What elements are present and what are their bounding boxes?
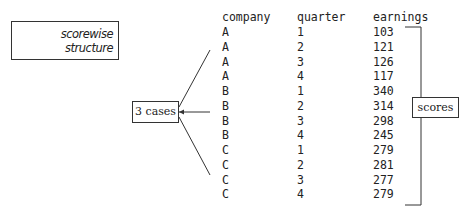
cell-earnings: 277: [373, 174, 394, 187]
cell-earnings: 279: [373, 188, 394, 201]
cell-company: A: [222, 56, 229, 69]
cell-quarter: 4: [297, 129, 304, 142]
cell-earnings: 103: [373, 26, 394, 39]
cell-company: A: [222, 41, 229, 54]
cell-earnings: 121: [373, 41, 394, 54]
cell-quarter: 2: [297, 100, 304, 113]
line-to-group-a: [179, 50, 210, 107]
cell-quarter: 1: [297, 26, 304, 39]
cell-earnings: 298: [373, 115, 394, 128]
cell-company: B: [222, 100, 229, 113]
cell-earnings: 279: [373, 144, 394, 157]
cell-company: B: [222, 85, 229, 98]
cell-quarter: 3: [297, 56, 304, 69]
cell-company: B: [222, 115, 229, 128]
cell-company: C: [222, 188, 229, 201]
cell-earnings: 245: [373, 129, 394, 142]
cell-earnings: 340: [373, 85, 394, 98]
cell-quarter: 2: [297, 41, 304, 54]
cell-company: C: [222, 144, 229, 157]
cell-quarter: 2: [297, 159, 304, 172]
cell-quarter: 3: [297, 174, 304, 187]
cell-earnings: 126: [373, 56, 394, 69]
arrowhead-icon: [179, 110, 184, 115]
bracket-top: [405, 27, 421, 97]
cell-company: C: [222, 159, 229, 172]
cell-company: A: [222, 70, 229, 83]
title-line-1: scorewise: [12, 27, 113, 41]
scorewise-structure-box: scorewise structure: [11, 21, 119, 60]
cell-quarter: 4: [297, 70, 304, 83]
cases-label-box: 3 cases: [132, 101, 179, 123]
cell-earnings: 117: [373, 70, 394, 83]
cell-company: A: [222, 26, 229, 39]
cell-company: C: [222, 174, 229, 187]
column-header-quarter: quarter: [297, 11, 345, 24]
cell-earnings: 281: [373, 159, 394, 172]
cell-quarter: 4: [297, 188, 304, 201]
scores-label-box: scores: [412, 97, 459, 118]
line-to-group-c: [179, 117, 210, 175]
cell-quarter: 1: [297, 144, 304, 157]
bracket-bottom: [405, 118, 421, 205]
cell-company: B: [222, 129, 229, 142]
cell-quarter: 3: [297, 115, 304, 128]
column-header-earnings: earnings: [373, 11, 428, 24]
cell-quarter: 1: [297, 85, 304, 98]
cell-earnings: 314: [373, 100, 394, 113]
column-header-company: company: [222, 11, 270, 24]
title-line-2: structure: [12, 41, 113, 55]
